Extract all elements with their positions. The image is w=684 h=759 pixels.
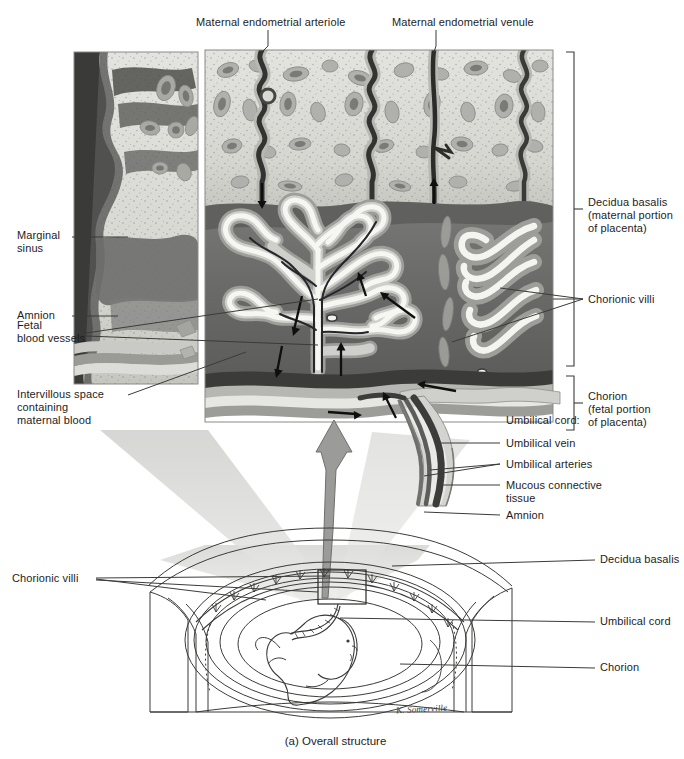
label-umbilical-arteries: Umbilical arteries	[506, 458, 626, 471]
label-fetal-blood-vessels: Fetal blood vessels	[17, 319, 107, 345]
label-marginal-sinus: Marginal sinus	[17, 229, 83, 255]
leader-amnion-lower	[424, 512, 500, 515]
label-amnion-lower: Amnion	[506, 509, 596, 522]
leader-arteriole	[262, 30, 268, 52]
figure-caption: (a) Overall structure	[0, 735, 671, 747]
label-chorion-lower: Chorion	[600, 661, 684, 674]
label-chorionic-villi-upper: Chorionic villi	[588, 293, 674, 306]
label-decidua-basalis-bracket: Decidua basalis (maternal portion of pla…	[588, 196, 674, 236]
leader-umbilical-cord-lower	[340, 618, 595, 622]
magnification-cone	[100, 430, 470, 600]
label-intervillous-space: Intervillous space containing maternal b…	[17, 388, 127, 428]
label-maternal-endometrial-venule: Maternal endometrial venule	[392, 16, 592, 29]
label-chorionic-villi-lower: Chorionic villi	[12, 572, 102, 585]
label-decidua-basalis-lower: Decidua basalis	[600, 553, 684, 566]
panel-placenta-section	[205, 50, 553, 419]
region-brackets	[566, 52, 583, 430]
bracket-decidua-basalis	[566, 52, 574, 366]
label-maternal-endometrial-arteriole: Maternal endometrial arteriole	[196, 16, 396, 29]
label-mucous-connective-tissue: Mucous connective tissue	[506, 479, 630, 505]
spiral-arteriole-2	[369, 50, 375, 206]
label-umbilical-cord-heading: Umbilical cord:	[506, 414, 616, 427]
label-umbilical-vein: Umbilical vein	[506, 437, 616, 450]
leader-venule	[434, 30, 436, 52]
label-umbilical-cord-lower: Umbilical cord	[600, 615, 684, 628]
leader-decidua-basalis-lower	[392, 560, 595, 566]
